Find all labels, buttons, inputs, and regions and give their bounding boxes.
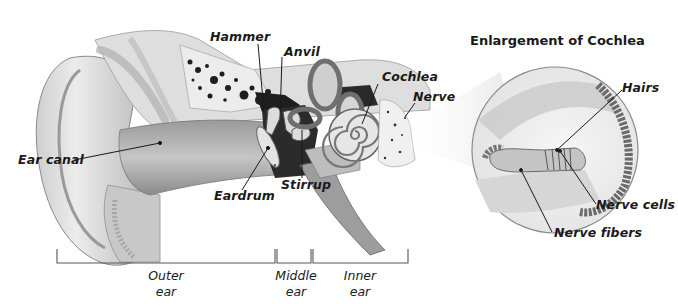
middle-ear-bracket	[277, 249, 311, 263]
ear-anatomy-diagram: Hammer Anvil Cochlea Nerve Enlargement o…	[0, 0, 678, 308]
label-eardrum: Eardrum	[214, 189, 275, 203]
label-hairs: Hairs	[622, 81, 659, 95]
region-inner-ear: Inner ear	[334, 268, 386, 300]
region-outer-line2: ear	[140, 284, 192, 300]
region-inner-line2: ear	[334, 284, 386, 300]
ear-canal-shape	[119, 120, 275, 195]
label-stirrup: Stirrup	[281, 178, 331, 192]
region-outer-ear: Outer ear	[140, 268, 192, 300]
region-outer-line1: Outer	[140, 268, 192, 284]
region-middle-line2: ear	[270, 284, 322, 300]
label-nerve-cells: Nerve cells	[596, 198, 675, 212]
label-ear-canal: Ear canal	[18, 153, 84, 167]
label-nerve-fibers: Nerve fibers	[554, 226, 642, 240]
inset-title: Enlargement of Cochlea	[470, 33, 645, 48]
region-inner-line1: Inner	[334, 268, 386, 284]
inner-ear-bracket	[313, 249, 408, 263]
label-nerve: Nerve	[413, 90, 455, 104]
label-cochlea: Cochlea	[382, 70, 438, 84]
label-anvil: Anvil	[284, 45, 320, 59]
label-hammer: Hammer	[210, 30, 270, 44]
region-middle-line1: Middle	[270, 268, 322, 284]
region-middle-ear: Middle ear	[270, 268, 322, 300]
